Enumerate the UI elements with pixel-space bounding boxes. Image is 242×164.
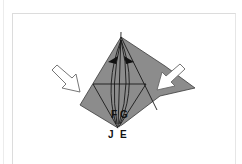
label-f: F [111, 109, 117, 120]
left-push-arrow-icon [52, 65, 80, 92]
paper-shape [80, 37, 195, 128]
label-g: G [120, 109, 128, 120]
origami-diagram: F G J E [0, 0, 242, 164]
label-j: J [108, 129, 114, 140]
label-e: E [120, 129, 127, 140]
